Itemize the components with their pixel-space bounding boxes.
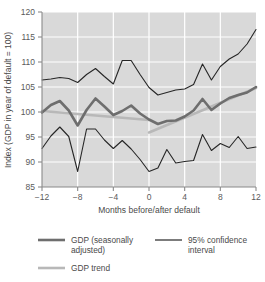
legend-label-2: GDP trend	[71, 263, 110, 273]
x-tick-label-8: 8	[218, 192, 223, 202]
x-axis-tick-labels: −12−8−404812	[35, 192, 261, 202]
x-tick-label-12: 12	[251, 192, 261, 202]
y-tick-label-105: 105	[21, 82, 35, 92]
gdp-default-line-chart: 859095100105110115120 −12−8−404812 Month…	[0, 0, 265, 282]
y-axis-tick-labels: 859095100105110115120	[21, 7, 35, 192]
y-tick-label-110: 110	[21, 57, 35, 67]
legend-label-1-line2: interval	[188, 245, 215, 255]
chart-figure: 859095100105110115120 −12−8−404812 Month…	[0, 0, 265, 282]
x-axis-title: Months before/after default	[98, 205, 200, 215]
legend-entry-1: 95% confidenceinterval	[155, 235, 247, 255]
legend-label-1: 95% confidence	[188, 235, 247, 245]
x-axis-ticks	[42, 187, 256, 191]
y-tick-label-95: 95	[26, 132, 36, 142]
x-tick-label--8: −8	[73, 192, 83, 202]
x-tick-label--12: −12	[35, 192, 50, 202]
x-tick-label-0: 0	[147, 192, 152, 202]
y-tick-label-90: 90	[26, 157, 36, 167]
chart-legend: GDP (seasonallyadjusted)95% confidencein…	[38, 235, 247, 273]
y-tick-label-115: 115	[21, 32, 35, 42]
y-axis-ticks	[38, 12, 42, 187]
y-tick-label-85: 85	[26, 182, 36, 192]
legend-label-0-line2: adjusted)	[71, 245, 105, 255]
x-tick-label--4: −4	[108, 192, 118, 202]
legend-entry-2: GDP trend	[38, 263, 110, 273]
y-axis-title: Index (GDP in year of default = 100)	[3, 32, 13, 168]
x-tick-label-4: 4	[182, 192, 187, 202]
legend-entry-0: GDP (seasonallyadjusted)	[38, 235, 134, 255]
legend-label-0: GDP (seasonally	[71, 235, 134, 245]
y-tick-label-100: 100	[21, 107, 35, 117]
y-tick-label-120: 120	[21, 7, 35, 17]
